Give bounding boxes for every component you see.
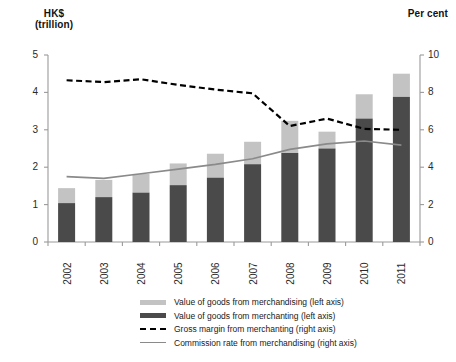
left-axis-tick-label: 0 [20, 237, 38, 247]
x-axis-year-label: 2007 [247, 254, 258, 294]
bar-segment-merchanting [133, 193, 150, 242]
x-axis-year-label: 2003 [98, 254, 109, 294]
bar-segment-merchandising [393, 74, 410, 97]
x-axis-year-label: 2005 [173, 254, 184, 294]
legend-item: Value of goods from merchanting (left ax… [140, 310, 440, 322]
legend-label: Value of goods from merchanting (left ax… [174, 310, 335, 322]
x-axis-year-label: 2010 [359, 254, 370, 294]
legend-item: Commission rate from merchandising (righ… [140, 337, 440, 349]
legend-swatch-bar-dark-icon [140, 310, 166, 322]
legend-item: Value of goods from merchandising (left … [140, 296, 440, 308]
legend-swatch-dashed-line-icon [140, 323, 166, 335]
bar-segment-merchanting [356, 119, 373, 242]
right-axis-tick-label: 4 [428, 162, 448, 172]
bar-segment-merchandising [244, 142, 261, 164]
bar-segment-merchandising [170, 163, 187, 185]
bar-segment-merchandising [95, 180, 112, 197]
x-axis-year-label: 2002 [61, 254, 72, 294]
bar-segment-merchanting [319, 149, 336, 243]
bar-segment-merchanting [58, 203, 75, 242]
bar-segment-merchandising [356, 94, 373, 118]
bar-segment-merchandising [319, 132, 336, 149]
left-axis-tick-label: 3 [20, 125, 38, 135]
chart-legend: Value of goods from merchandising (left … [140, 296, 440, 350]
x-axis-year-label: 2011 [396, 254, 407, 294]
x-axis-year-label: 2006 [210, 254, 221, 294]
x-axis-year-label: 2008 [284, 254, 295, 294]
bar-segment-merchandising [133, 174, 150, 193]
x-axis-year-label: 2004 [136, 254, 147, 294]
x-axis-year-label: 2009 [322, 254, 333, 294]
legend-label: Gross margin from merchanting (right axi… [174, 323, 336, 335]
bar-segment-merchanting [95, 197, 112, 242]
bar-segment-merchanting [244, 164, 261, 242]
right-axis-tick-label: 8 [428, 87, 448, 97]
right-axis-tick-label: 0 [428, 237, 448, 247]
legend-item: Gross margin from merchanting (right axi… [140, 323, 440, 335]
bar-segment-merchanting [207, 178, 224, 242]
right-axis-tick-label: 6 [428, 125, 448, 135]
gross-margin-line [67, 79, 402, 129]
right-axis-tick-label: 2 [428, 200, 448, 210]
bar-segment-merchandising [58, 188, 75, 203]
legend-swatch-bar-light-icon [140, 296, 166, 308]
legend-swatch-solid-line-icon [140, 337, 166, 349]
bar-segment-merchanting [170, 185, 187, 242]
left-axis-tick-label: 4 [20, 87, 38, 97]
commission-rate-line [67, 141, 402, 178]
legend-label: Value of goods from merchandising (left … [174, 296, 344, 308]
left-axis-tick-label: 1 [20, 200, 38, 210]
left-axis-tick-label: 2 [20, 162, 38, 172]
left-axis-tick-label: 5 [20, 50, 38, 60]
bar-segment-merchanting [393, 97, 410, 242]
right-axis-tick-label: 10 [428, 50, 448, 60]
bar-segment-merchanting [281, 153, 298, 242]
legend-label: Commission rate from merchandising (righ… [174, 337, 357, 349]
